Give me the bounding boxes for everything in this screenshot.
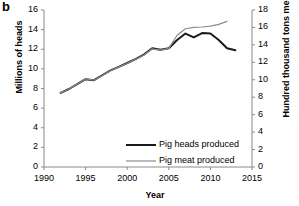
- x-tick-2: 2000: [110, 173, 144, 183]
- y-left-tick-4: 8: [16, 83, 38, 93]
- legend-line-swatches: [126, 145, 156, 161]
- y-right-tick-3: 6: [258, 109, 280, 119]
- y-left-tick-2: 4: [16, 122, 38, 132]
- y-right-tick-9: 18: [258, 4, 280, 14]
- x-tick-5: 2015: [235, 173, 269, 183]
- y-right-tick-7: 14: [258, 39, 280, 49]
- x-tick-0: 1990: [27, 173, 61, 183]
- y-left-tick-5: 10: [16, 63, 38, 73]
- y-right-tick-0: 0: [258, 161, 280, 171]
- y-axis-left-title: Millions of heads: [14, 2, 24, 112]
- data-series-group: [61, 21, 236, 93]
- y-right-tick-8: 16: [258, 21, 280, 31]
- y-right-tick-1: 2: [258, 144, 280, 154]
- y-right-tick-6: 12: [258, 56, 280, 66]
- y-left-tick-1: 2: [16, 141, 38, 151]
- y-left-tick-6: 12: [16, 43, 38, 53]
- x-axis-title: Year: [60, 190, 250, 200]
- y-left-tick-8: 16: [16, 4, 38, 14]
- figure-panel-b: b Millions of heads Hundred thousand ton…: [0, 0, 299, 206]
- x-tick-3: 2005: [152, 173, 186, 183]
- y-right-tick-2: 4: [258, 126, 280, 136]
- y-left-tick-0: 0: [16, 161, 38, 171]
- legend-item-1: Pig meat produced: [159, 155, 235, 165]
- legend-item-0: Pig heads produced: [159, 139, 239, 149]
- x-tick-4: 2010: [193, 173, 227, 183]
- y-axis-right-title: Hundred thousand tons meat: [281, 0, 291, 131]
- y-right-tick-5: 10: [258, 74, 280, 84]
- x-tick-1: 1995: [69, 173, 103, 183]
- y-right-tick-4: 8: [258, 91, 280, 101]
- y-left-tick-3: 6: [16, 102, 38, 112]
- y-left-tick-7: 14: [16, 24, 38, 34]
